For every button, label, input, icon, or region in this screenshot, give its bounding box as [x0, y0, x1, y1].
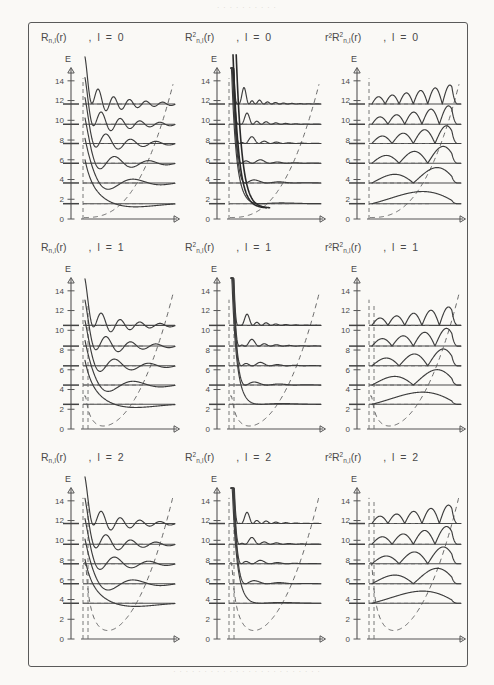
panel-title-symbol: R [332, 451, 340, 463]
panel-title-prefix: r² [325, 31, 332, 43]
wavefunction-curve [372, 146, 461, 163]
y-tick-label: 2 [60, 195, 65, 204]
y-tick-label: 4 [346, 385, 351, 394]
panel-title-prefix: r² [325, 241, 332, 253]
y-tick-label: 0 [206, 635, 211, 644]
panel-title-lcondition: , l = 0 [383, 31, 419, 43]
y-tick-label: 2 [206, 195, 211, 204]
wavefunction-curve [85, 279, 175, 332]
y-axis-label: E [351, 264, 357, 274]
y-tick-label: 2 [60, 405, 65, 414]
plot-row-l0: Rn,l(r), l = 0R2n,l(r), l = 0r²R2n,l(r),… [29, 31, 467, 241]
y-tick-label: 12 [55, 306, 64, 315]
panel-title-argument: (r) [56, 451, 67, 463]
panel-title: r²R2n,l(r), l = 1 [325, 241, 420, 254]
row-header: Rn,l(r), l = 2R2n,l(r), l = 2r²R2n,l(r),… [29, 451, 467, 475]
panel-title-symbol: R [185, 241, 193, 253]
y-tick-label: 14 [341, 287, 350, 296]
wavefunction-curve [231, 278, 321, 385]
panel-title-lcondition: , l = 1 [383, 241, 419, 253]
plot-panel-l2-col3: E02468101214r [321, 473, 467, 659]
wavefunction-curve [372, 591, 461, 603]
panel-title-symbol: R [41, 241, 49, 253]
y-tick-label: 0 [206, 215, 211, 224]
wavefunction-curve [372, 547, 461, 564]
y-tick-label: 14 [341, 77, 350, 86]
y-tick-label: 0 [346, 425, 351, 434]
y-tick-label: 0 [346, 215, 351, 224]
y-tick-label: 2 [346, 615, 351, 624]
wavefunction-curve [231, 68, 321, 163]
plot-row-l2: Rn,l(r), l = 2R2n,l(r), l = 2r²R2n,l(r),… [29, 451, 467, 661]
y-axis-label: E [65, 264, 71, 274]
panel-title-subscript: n,l [49, 37, 56, 44]
panel-title-prefix: r² [325, 451, 332, 463]
panel-title-argument: (r) [351, 31, 362, 43]
y-tick-label: 0 [346, 635, 351, 644]
wavefunction-curve [231, 488, 321, 603]
panel-title-argument: (r) [351, 451, 362, 463]
y-tick-label: 2 [60, 615, 65, 624]
panel-title-symbol: R [332, 241, 340, 253]
panel-title: r²R2n,l(r), l = 0 [325, 31, 420, 44]
panel-title-lcondition: , l = 1 [89, 241, 125, 253]
panel-title-subscript: n,l [49, 457, 56, 464]
wavefunction-curve [372, 527, 461, 545]
y-tick-label: 0 [60, 215, 65, 224]
plot-panel-l2-col1: E02468101214r [35, 473, 181, 659]
y-tick-label: 14 [55, 497, 64, 506]
y-axis-label: E [211, 54, 217, 64]
panel-title-argument: (r) [56, 31, 67, 43]
y-tick-label: 6 [346, 366, 351, 375]
wavefunction-curve [85, 300, 175, 351]
plot-panel-l1-col2: E02468101214r [181, 263, 327, 449]
y-tick-label: 14 [55, 287, 64, 296]
panel-title-argument: (r) [204, 31, 215, 43]
wavefunction-curve [231, 68, 321, 143]
y-axis-label: E [351, 474, 357, 484]
panel-title-argument: (r) [204, 241, 215, 253]
panel-title-lcondition: , l = 2 [89, 451, 125, 463]
y-axis-label: E [211, 474, 217, 484]
y-tick-label: 2 [206, 405, 211, 414]
y-tick-label: 12 [341, 306, 350, 315]
wavefunction-curve [85, 498, 175, 549]
panel-title: R2n,l(r), l = 0 [185, 31, 273, 44]
page-bleed-top: · · · · · · · · · · [0, 4, 494, 11]
y-tick-label: 8 [346, 346, 351, 355]
plot-panel-l0-col2: E02468101214r [181, 53, 327, 239]
panel-title-subscript: n,l [343, 37, 350, 44]
y-tick-label: 14 [55, 77, 64, 86]
panel-title: R2n,l(r), l = 1 [185, 241, 273, 254]
plot-panel-l0-col3: E02468101214r [321, 53, 467, 239]
y-tick-label: 0 [60, 425, 65, 434]
y-tick-label: 2 [346, 405, 351, 414]
plot-panel-l0-col1: E02468101214r [35, 53, 181, 239]
row-header: Rn,l(r), l = 1R2n,l(r), l = 1r²R2n,l(r),… [29, 241, 467, 265]
row-header: Rn,l(r), l = 0R2n,l(r), l = 0r²R2n,l(r),… [29, 31, 467, 55]
wavefunction-curve [372, 168, 461, 183]
wavefunction-curve [231, 278, 321, 346]
panel-title-subscript: n,l [196, 457, 203, 464]
y-tick-label: 8 [60, 346, 65, 355]
panel-title-subscript: n,l [343, 457, 350, 464]
y-tick-label: 10 [201, 326, 210, 335]
panel-title: R2n,l(r), l = 2 [185, 451, 273, 464]
wavefunction-curve [85, 477, 175, 530]
panel-title-lcondition: , l = 2 [236, 451, 272, 463]
panel-title-symbol: R [332, 31, 340, 43]
wavefunction-curve [372, 328, 461, 346]
panel-title-subscript: n,l [196, 37, 203, 44]
figure-frame: Rn,l(r), l = 0R2n,l(r), l = 0r²R2n,l(r),… [28, 22, 468, 667]
y-tick-label: 0 [60, 635, 65, 644]
y-tick-label: 14 [201, 287, 210, 296]
y-tick-label: 2 [346, 195, 351, 204]
plot-row-l1: Rn,l(r), l = 1R2n,l(r), l = 1r²R2n,l(r),… [29, 241, 467, 451]
wavefunction-curve [231, 488, 321, 584]
panel-title-symbol: R [185, 31, 193, 43]
potential-curve-dark [233, 54, 267, 208]
wavefunction-curve [85, 57, 175, 111]
y-tick-label: 6 [206, 366, 211, 375]
y-tick-label: 14 [201, 497, 210, 506]
wavefunction-curve [231, 68, 321, 104]
